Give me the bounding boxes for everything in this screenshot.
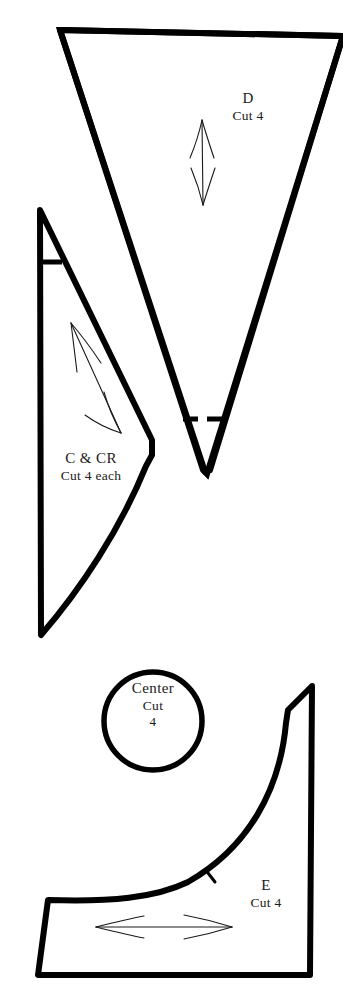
piece-d-quantity: Cut 4: [208, 108, 288, 124]
piece-center-quantity: Cut: [113, 698, 193, 714]
piece-d-label: D Cut 4: [208, 90, 288, 124]
pattern-sheet: D Cut 4 C & CR Cut 4 each Center Cut 4 E…: [0, 0, 343, 1001]
piece-e-quantity: Cut 4: [228, 895, 304, 911]
piece-center-name: Center: [113, 680, 193, 698]
piece-c-quantity: Cut 4 each: [35, 468, 147, 484]
pattern-drawing: [0, 0, 343, 1001]
piece-center-quantity-number: 4: [113, 714, 193, 729]
piece-center-label: Center Cut 4: [113, 680, 193, 729]
piece-e-label: E Cut 4: [228, 877, 304, 911]
piece-c-label: C & CR Cut 4 each: [35, 450, 147, 484]
piece-d-name: D: [208, 90, 288, 108]
piece-e-name: E: [228, 877, 304, 895]
piece-c-name: C & CR: [35, 450, 147, 468]
